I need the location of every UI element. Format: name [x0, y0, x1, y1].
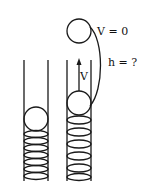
arrow-head-icon [77, 58, 82, 65]
physics-diagram: V V = 0 h = ? [0, 0, 147, 195]
launch-velocity-label: V [79, 70, 89, 83]
left-spring [24, 131, 48, 180]
right-spring [67, 116, 91, 181]
right-ball [67, 91, 91, 115]
top-velocity-label: V = 0 [96, 25, 128, 38]
top-ball [67, 19, 91, 43]
left-tube [24, 60, 48, 181]
height-label: h = ? [108, 56, 137, 69]
left-ball [24, 107, 48, 131]
